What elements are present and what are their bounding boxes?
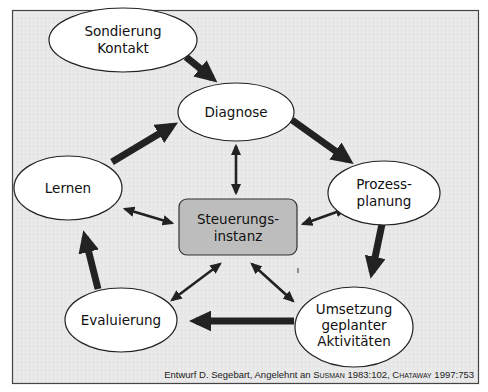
node-label: geplanter: [321, 317, 387, 333]
node-label: Diagnose: [204, 104, 267, 120]
node-label: planung: [357, 193, 412, 209]
caption-prefix: Entwurf D. Segebart, Angelehnt an: [164, 369, 313, 380]
node-lernen: Lernen: [14, 156, 122, 220]
node-label: Umsetzung: [316, 301, 392, 317]
node-label: Lernen: [45, 180, 91, 196]
caption-author-chataway: Chataway: [392, 369, 431, 380]
node-evaluierung: Evaluierung: [65, 288, 177, 352]
node-label: Aktivitäten: [317, 333, 391, 349]
caption-ref-2: 1997:753: [432, 369, 474, 380]
node-sondierung-kontakt: Sondierung Kontakt: [49, 8, 197, 72]
node-prozessplanung: Prozess- planung: [328, 161, 440, 225]
node-steuerungsinstanz: Steuerungs- instanz: [179, 199, 297, 255]
node-label: Steuerungs-: [197, 211, 279, 227]
caption-author-susman: Susman: [313, 369, 345, 380]
node-diagnose: Diagnose: [178, 83, 294, 141]
node-label: Prozess-: [356, 176, 412, 192]
process-cycle-diagram: Sondierung Kontakt Diagnose Prozess- pla…: [0, 0, 488, 392]
node-label: Kontakt: [97, 40, 149, 56]
node-label: instanz: [214, 228, 263, 244]
node-umsetzung: Umsetzung geplanter Aktivitäten: [295, 287, 413, 367]
node-label: Evaluierung: [81, 312, 161, 328]
source-caption: Entwurf D. Segebart, Angelehnt an Susman…: [164, 369, 474, 380]
node-label: Sondierung: [84, 23, 161, 39]
caption-ref-1: 1983:102,: [345, 369, 393, 380]
